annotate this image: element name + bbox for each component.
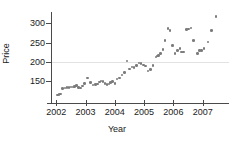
- data-point: [164, 39, 167, 42]
- data-point: [81, 85, 84, 88]
- data-point: [215, 15, 218, 18]
- data-point: [171, 44, 174, 47]
- data-point: [86, 77, 89, 80]
- data-point: [179, 47, 182, 50]
- data-point: [59, 93, 62, 96]
- data-point: [210, 29, 213, 32]
- data-point: [114, 82, 117, 85]
- data-point: [162, 48, 165, 51]
- x-tick: [86, 100, 87, 106]
- plot-area: [51, 12, 229, 100]
- x-tick: [56, 100, 57, 106]
- data-point: [159, 52, 162, 55]
- x-tick: [203, 100, 204, 106]
- data-point: [207, 41, 210, 44]
- data-point: [144, 65, 147, 68]
- y-axis-line: [51, 12, 52, 104]
- y-axis-title: Price: [2, 31, 11, 77]
- data-point: [128, 68, 131, 71]
- y-tick: [46, 62, 52, 63]
- data-point: [96, 83, 99, 86]
- y-tick-label: 300: [15, 19, 45, 28]
- y-tick: [46, 81, 52, 82]
- data-point: [79, 87, 82, 90]
- data-point: [182, 51, 185, 54]
- x-tick: [173, 100, 174, 106]
- y-tick-label: 150: [15, 77, 45, 86]
- data-point: [192, 39, 195, 42]
- x-tick: [115, 100, 116, 106]
- data-point: [135, 64, 138, 67]
- y-tick: [46, 43, 52, 44]
- y-tick-label: 250: [15, 39, 45, 48]
- data-point: [190, 27, 193, 30]
- y-tick-label: 200: [15, 58, 45, 67]
- y-tick: [46, 23, 52, 24]
- data-point: [83, 82, 86, 85]
- data-point: [123, 71, 126, 74]
- data-point: [121, 74, 124, 77]
- data-point: [149, 68, 152, 71]
- data-point: [169, 29, 172, 32]
- data-point: [118, 77, 121, 80]
- data-point: [203, 47, 206, 50]
- data-point: [152, 64, 155, 67]
- scatter-plot-figure: 150200250300 200220032004200520062007 Pr…: [0, 0, 234, 144]
- data-point: [174, 52, 177, 55]
- x-tick: [144, 100, 145, 106]
- x-axis-title: Year: [0, 125, 234, 134]
- x-tick-label: 2007: [186, 108, 220, 117]
- data-point: [196, 52, 199, 55]
